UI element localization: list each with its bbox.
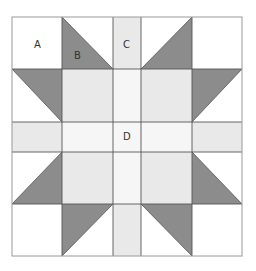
half-square-triangle-top-left [62,17,113,69]
strip-bottom [113,204,141,256]
half-square-triangle-right-top [192,69,242,122]
cross-bottom [113,152,141,204]
cross-left [62,122,113,152]
half-square-triangle-top-right [141,17,192,69]
half-square-triangle-right-bottom [192,152,242,204]
quilt-block-diagram: A B C D [0,0,256,271]
label-a: A [34,39,41,50]
corner-square-top-right [192,17,242,69]
strip-left [12,122,62,152]
cross-right [141,122,192,152]
label-c: C [123,39,130,50]
label-b: B [74,50,81,61]
square-top-right [141,69,192,122]
square-top-left [62,69,113,122]
half-square-triangle-bottom-right [141,204,192,256]
strip-right [192,122,242,152]
half-square-triangle-bottom-left [62,204,113,256]
cross-top [113,69,141,122]
corner-square-bottom-right [192,204,242,256]
half-square-triangle-left-top [12,69,62,122]
square-bottom-right [141,152,192,204]
half-square-triangle-left-bottom [12,152,62,204]
corner-square-bottom-left [12,204,62,256]
label-d: D [123,131,131,142]
square-bottom-left [62,152,113,204]
